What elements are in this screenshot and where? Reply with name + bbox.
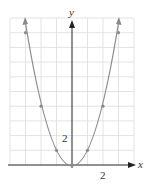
parabola-chart: y x 2 2 <box>0 0 150 184</box>
x-axis-label: x <box>137 158 143 170</box>
y-axis <box>69 20 75 168</box>
y-axis-label: y <box>68 6 74 18</box>
y-tick-label: 2 <box>62 132 68 144</box>
x-tick-label: 2 <box>100 169 106 181</box>
